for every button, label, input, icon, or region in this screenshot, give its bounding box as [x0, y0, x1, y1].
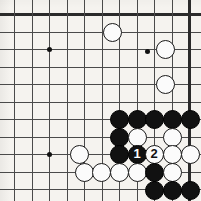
black-stone[interactable]	[181, 181, 200, 200]
black-stone[interactable]	[145, 163, 164, 182]
white-stone[interactable]	[156, 40, 175, 59]
black-stone[interactable]	[145, 110, 164, 129]
white-stone[interactable]	[163, 145, 182, 164]
go-board-diagram: 12	[0, 0, 201, 201]
white-stone[interactable]	[75, 163, 94, 182]
black-stone[interactable]	[110, 145, 129, 164]
star-upper-left-icon	[47, 47, 52, 52]
stone-move-number: 2	[150, 147, 157, 160]
black-stone[interactable]	[110, 128, 129, 147]
star-upper-right-icon	[145, 49, 150, 54]
white-stone[interactable]	[110, 163, 129, 182]
grid-line-vertical	[67, 0, 68, 201]
move-stone-1[interactable]: 1	[128, 145, 147, 164]
white-stone[interactable]	[163, 163, 182, 182]
grid-line-vertical	[49, 0, 50, 201]
white-stone[interactable]	[163, 128, 182, 147]
grid-line-vertical	[14, 0, 15, 201]
white-stone[interactable]	[128, 163, 147, 182]
white-stone[interactable]	[92, 163, 111, 182]
white-stone[interactable]	[70, 145, 89, 164]
white-stone[interactable]	[128, 128, 147, 147]
white-stone[interactable]	[103, 23, 122, 42]
black-stone[interactable]	[128, 110, 147, 129]
move-stone-2[interactable]: 2	[145, 145, 164, 164]
black-stone[interactable]	[163, 110, 182, 129]
board-edge-right	[188, 0, 191, 201]
black-stone[interactable]	[181, 110, 200, 129]
black-stone[interactable]	[110, 110, 129, 129]
white-stone[interactable]	[156, 75, 175, 94]
black-stone[interactable]	[145, 181, 164, 200]
star-lower-left-icon	[47, 152, 52, 157]
stone-move-number: 1	[133, 147, 140, 160]
grid-line-vertical	[32, 0, 33, 201]
black-stone[interactable]	[163, 181, 182, 200]
white-stone[interactable]	[181, 145, 200, 164]
